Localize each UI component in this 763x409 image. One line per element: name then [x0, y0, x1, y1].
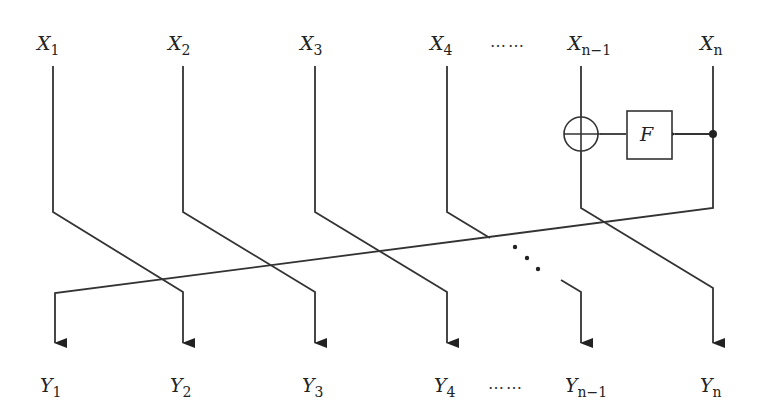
wire-x1-to-y2 [53, 66, 183, 343]
input-ellipsis: …… [490, 32, 526, 51]
wire-x2-to-y3 [183, 66, 315, 343]
feistel-diagram: X1 X2 X3 X4 …… Xn−1 Xn F Y1 [0, 0, 763, 409]
output-label-y4: Y4 [434, 374, 456, 400]
output-labels: Y1 Y2 Y3 Y4 …… Yn−1 Yn [40, 374, 722, 400]
branch-junction-dot [709, 130, 717, 138]
output-label-y1: Y1 [40, 374, 61, 400]
wire-x4-partial [447, 66, 490, 238]
output-label-y3: Y3 [302, 374, 323, 400]
wire-xn-1-to-yn [581, 66, 713, 343]
input-label-xn: Xn [698, 32, 723, 58]
xor-icon [564, 117, 598, 151]
output-label-yn: Yn [700, 374, 722, 400]
output-ellipsis: …… [488, 374, 524, 393]
wires [53, 66, 717, 343]
output-label-y2: Y2 [170, 374, 191, 400]
input-label-x1: X1 [35, 32, 59, 58]
wire-x3-to-y4 [315, 66, 447, 343]
middle-ellipsis-dots [513, 245, 540, 271]
input-labels: X1 X2 X3 X4 …… Xn−1 Xn [35, 32, 723, 58]
input-label-x2: X2 [166, 32, 190, 58]
input-label-x4: X4 [428, 32, 453, 58]
wire-partial-to-yn-1 [561, 280, 581, 343]
input-label-x3: X3 [298, 32, 322, 58]
wire-xn-to-y1 [55, 66, 713, 343]
function-box-f: F [627, 111, 672, 159]
function-box-label: F [639, 123, 654, 145]
input-label-xn-1: Xn−1 [566, 32, 611, 58]
output-label-yn-1: Yn−1 [565, 374, 607, 400]
